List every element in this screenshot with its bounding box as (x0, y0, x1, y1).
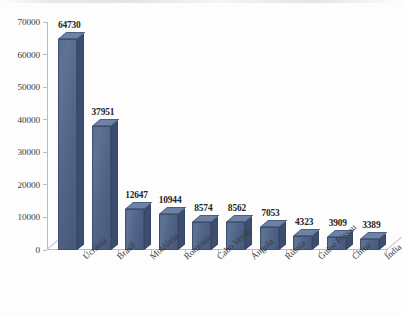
x-category-label: Moldávia (148, 254, 155, 261)
x-category-label: Ucrânia (81, 254, 88, 261)
bar-value-label: 8574 (194, 203, 212, 213)
x-category-label: Brasil (115, 254, 122, 261)
y-tick-label: 20000 (18, 179, 40, 191)
bar-ucr-nia: 64730 (58, 39, 77, 250)
bar-side-face (211, 216, 218, 250)
x-category-label: Rússia (283, 254, 290, 261)
bar-value-label: 8562 (228, 203, 246, 213)
x-category-label: Cabo Verde (215, 254, 222, 261)
x-category-label: China (350, 254, 357, 261)
y-tick-label: 30000 (18, 146, 40, 158)
bar-side-face (111, 121, 118, 250)
y-tick-label: 0 (36, 244, 41, 256)
bar-value-label: 10944 (159, 195, 182, 205)
x-category-label: Angola (249, 254, 256, 261)
bar-brasil: 37951 (92, 126, 111, 250)
bar-value-label: 3909 (329, 218, 347, 228)
bar-front-face (58, 39, 77, 250)
y-tick-label: 10000 (18, 211, 40, 223)
scan-artifact (0, 0, 402, 3)
y-tick-label: 70000 (18, 16, 40, 28)
bar-series: 6473037951126471094485748562705343233909… (47, 22, 395, 250)
y-tick-label: 60000 (18, 49, 40, 61)
y-tick: 50000 (3, 81, 47, 93)
y-tick-label: 40000 (18, 114, 40, 126)
y-tick: 40000 (3, 114, 47, 126)
bar-side-face (144, 203, 151, 250)
bar-chart-figure: 010000200003000040000500006000070000 647… (0, 0, 402, 317)
y-tick: 30000 (3, 146, 47, 158)
bar-value-label: 12647 (125, 190, 148, 200)
x-axis-category-labels: UcrâniaBrasilMoldáviaRoméniaCabo VerdeAn… (47, 254, 402, 317)
y-tick: 70000 (3, 16, 47, 28)
y-tick: 10000 (3, 211, 47, 223)
bar-value-label: 64730 (58, 20, 81, 30)
bar-side-face (77, 33, 84, 250)
bar-value-label: 37951 (92, 107, 115, 117)
y-tick: 0 (3, 244, 47, 256)
bar-side-face (178, 208, 185, 250)
x-category-label: Guiné Bissau (316, 254, 323, 261)
y-tick-label: 50000 (18, 81, 40, 93)
x-category-label: Índia (383, 254, 390, 261)
bar-value-label: 3389 (362, 220, 380, 230)
bar-value-label: 4323 (295, 217, 313, 227)
y-tick: 20000 (3, 179, 47, 191)
plot-area: 010000200003000040000500006000070000 647… (47, 22, 395, 250)
x-category-label: Roménia (182, 254, 189, 261)
bar-front-face (92, 126, 111, 250)
y-tick: 60000 (3, 49, 47, 61)
bar-value-label: 7053 (261, 208, 279, 218)
